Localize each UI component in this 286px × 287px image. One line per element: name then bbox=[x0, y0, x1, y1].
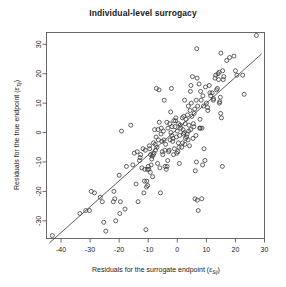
svg-text:0: 0 bbox=[175, 246, 179, 253]
svg-text:-20: -20 bbox=[35, 186, 42, 196]
regression-line bbox=[49, 54, 261, 243]
chart-page: Individual-level surrogacy -40-30-20-100… bbox=[0, 0, 286, 287]
svg-text:10: 10 bbox=[35, 99, 42, 107]
svg-text:-30: -30 bbox=[35, 216, 42, 226]
x-axis-tick-labels: -40-30-20-100102030 bbox=[56, 246, 269, 253]
svg-text:-10: -10 bbox=[35, 157, 42, 167]
svg-text:-30: -30 bbox=[85, 246, 95, 253]
svg-text:20: 20 bbox=[232, 246, 240, 253]
svg-text:20: 20 bbox=[35, 70, 42, 78]
svg-text:0: 0 bbox=[35, 131, 42, 135]
x-axis-ticks bbox=[61, 239, 264, 243]
svg-text:30: 30 bbox=[35, 40, 42, 48]
svg-text:30: 30 bbox=[261, 246, 269, 253]
svg-text:-40: -40 bbox=[56, 246, 66, 253]
svg-text:10: 10 bbox=[202, 246, 210, 253]
scatter-plot: -40-30-20-100102030 -30-20-100102030 Res… bbox=[0, 0, 286, 287]
svg-text:-10: -10 bbox=[143, 246, 153, 253]
data-points bbox=[50, 33, 258, 237]
y-axis-tick-labels: -30-20-100102030 bbox=[35, 40, 42, 226]
x-axis-label: Residuals for the surrogate endpoint (εS… bbox=[92, 266, 220, 275]
y-axis-ticks bbox=[43, 44, 47, 221]
plot-frame bbox=[47, 33, 265, 239]
svg-text:-20: -20 bbox=[114, 246, 124, 253]
y-axis-label: Residuals for the true endpoint (εTij) bbox=[13, 80, 22, 190]
